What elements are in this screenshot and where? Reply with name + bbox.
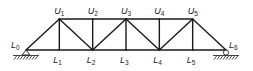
pin-support-L0 xyxy=(13,50,39,60)
ground-hatch xyxy=(235,56,238,60)
ground-hatch xyxy=(214,56,217,60)
node-label-L1: L1 xyxy=(53,55,62,66)
ground-hatch xyxy=(20,56,23,60)
ground-hatch xyxy=(32,56,35,60)
node-label-U1: U1 xyxy=(54,6,64,17)
node-label-L5: L5 xyxy=(187,55,196,66)
member-U1-L2 xyxy=(59,19,92,50)
node-label-L2: L2 xyxy=(87,55,96,66)
node-label-U3: U3 xyxy=(121,6,132,17)
ground-hatch xyxy=(14,56,17,60)
truss-diagram: L0L1L2L3L4L5L6U1U2U3U4U5 xyxy=(0,0,253,71)
node-label-L4: L4 xyxy=(153,55,162,66)
node-label-L6: L6 xyxy=(229,40,238,51)
node-labels: L0L1L2L3L4L5L6U1U2U3U4U5 xyxy=(11,6,238,66)
node-label-U5: U5 xyxy=(188,6,199,17)
node-label-L0: L0 xyxy=(11,40,20,51)
node-label-U4: U4 xyxy=(154,6,165,17)
member-U3-L4 xyxy=(126,19,159,50)
member-L4-U5 xyxy=(159,19,192,50)
ground-hatch xyxy=(223,56,226,60)
ground-hatch xyxy=(17,56,20,60)
member-L2-U3 xyxy=(93,19,126,50)
ground-hatch xyxy=(26,56,29,60)
ground-hatch xyxy=(23,56,26,60)
node-label-U2: U2 xyxy=(88,6,99,17)
ground-hatch xyxy=(220,56,223,60)
truss-members xyxy=(26,19,226,50)
ground-hatch xyxy=(232,56,235,60)
member-U5-L6 xyxy=(193,19,226,50)
roller-support-L6 xyxy=(213,50,239,60)
ground-hatch xyxy=(35,56,38,60)
ground-hatch xyxy=(29,56,32,60)
ground-hatch xyxy=(229,56,232,60)
ground-hatch xyxy=(226,56,229,60)
node-label-L3: L3 xyxy=(120,55,129,66)
ground-hatch xyxy=(217,56,220,60)
member-L0-U1 xyxy=(26,19,59,50)
